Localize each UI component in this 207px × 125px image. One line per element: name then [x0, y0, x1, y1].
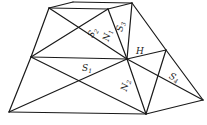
edge-AD: [49, 8, 108, 9]
label-s2: S2: [86, 25, 101, 39]
edge-IJ: [9, 112, 146, 114]
edge-JK: [146, 100, 203, 114]
edge-CG: [132, 3, 166, 50]
label-s3: S3: [114, 21, 127, 33]
label-s1: S1: [82, 63, 92, 74]
edge-AB: [49, 2, 73, 8]
label-n2: N2: [118, 78, 132, 93]
edge-BC: [73, 2, 132, 3]
frustum-diagram: S2N1S3HS1N2S4: [0, 0, 207, 125]
edge-FK: [127, 59, 203, 100]
label-n1: N1: [100, 28, 114, 43]
edges-group: [9, 2, 203, 114]
edge-EF: [31, 57, 127, 59]
edge-AE: [31, 8, 49, 57]
edge-CF: [127, 3, 132, 59]
edge-DC: [108, 3, 132, 9]
edge-GJ: [146, 50, 166, 114]
label-h: H: [135, 46, 144, 56]
label-s4: S4: [167, 71, 181, 85]
edge-FG: [127, 50, 166, 59]
diagram-canvas: S2N1S3HS1N2S4: [0, 0, 207, 125]
labels-group: S2N1S3HS1N2S4: [82, 21, 181, 94]
